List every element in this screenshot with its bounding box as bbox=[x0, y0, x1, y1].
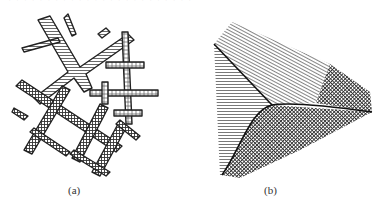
figure-b-domain-wedge bbox=[200, 20, 380, 180]
caption-a: (a) bbox=[68, 184, 80, 196]
cropped-text-line: · · · · · · · · · · · · · · · · · · · · … bbox=[8, 0, 328, 2]
caption-b: (b) bbox=[264, 184, 277, 196]
figure-a-dendrites bbox=[10, 12, 180, 184]
